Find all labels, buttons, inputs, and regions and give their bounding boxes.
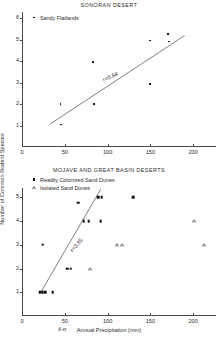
y-tick xyxy=(20,221,23,222)
y-tick xyxy=(20,104,23,105)
data-point xyxy=(69,267,72,270)
data-point xyxy=(66,267,69,270)
data-point xyxy=(97,196,100,199)
data-point xyxy=(60,124,62,126)
y-tick-label: 5 xyxy=(16,37,19,43)
y-tick xyxy=(20,40,23,41)
chart-title-top: SONORAN DESERT xyxy=(0,2,218,8)
y-tick xyxy=(20,126,23,127)
data-point xyxy=(52,291,55,294)
regression-line-top xyxy=(22,12,206,147)
x-tick xyxy=(193,144,194,147)
x-axis-title: Annual Precipitation (mm) xyxy=(0,327,218,333)
plot-area-bottom: r=0.85 12345050100150200 xyxy=(22,188,206,316)
y-tick-label: 4 xyxy=(16,58,19,64)
y-tick xyxy=(20,292,23,293)
data-point xyxy=(115,243,119,246)
data-point xyxy=(100,196,103,199)
panel-mojave-great-basin: MOJAVE AND GREAT BASIN DESERTS Readily C… xyxy=(0,166,218,338)
x-tick-label: 200 xyxy=(188,150,197,156)
y-tick-label: 1 xyxy=(16,123,19,129)
data-point xyxy=(202,243,206,246)
data-point xyxy=(120,243,124,246)
plot-area-top: r=0.84 123456050100150200 xyxy=(22,12,206,147)
y-tick-label: 2 xyxy=(16,101,19,107)
data-point xyxy=(132,196,135,199)
x-mean-sigma-marker: x̄-σ xyxy=(58,326,66,332)
x-tick-label: 100 xyxy=(103,319,112,325)
x-tick-label: 0 xyxy=(20,150,23,156)
y-tick xyxy=(20,83,23,84)
data-point xyxy=(93,103,95,105)
data-point xyxy=(87,220,90,223)
y-tick xyxy=(20,269,23,270)
x-tick-label: 50 xyxy=(62,319,68,325)
y-tick-label: 2 xyxy=(16,266,19,272)
data-point xyxy=(99,220,102,223)
x-tick-label: 50 xyxy=(62,150,68,156)
x-tick-label: 150 xyxy=(146,150,155,156)
data-point xyxy=(168,41,170,43)
data-point xyxy=(77,201,80,204)
chart-title-bottom: MOJAVE AND GREAT BASIN DESERTS xyxy=(0,167,218,173)
panel-sonoran-desert: SONORAN DESERT Sandy Flatlands r=0.84 12… xyxy=(0,0,218,168)
x-tick xyxy=(193,313,194,316)
legend-item-readily-colonized: Readily Colonized Sand Dunes xyxy=(30,176,115,183)
legend-label: Readily Colonized Sand Dunes xyxy=(40,177,115,183)
data-point xyxy=(41,244,44,247)
data-point xyxy=(149,40,151,42)
y-tick xyxy=(20,18,23,19)
y-tick-label: 1 xyxy=(16,289,19,295)
y-tick-label: 3 xyxy=(16,242,19,248)
y-tick-label: 3 xyxy=(16,80,19,86)
y-tick-label: 4 xyxy=(16,218,19,224)
x-tick xyxy=(108,144,109,147)
regression-line-bottom xyxy=(22,188,206,316)
data-point xyxy=(167,33,169,35)
data-point xyxy=(149,83,151,85)
x-tick-label: 150 xyxy=(146,319,155,325)
x-tick-label: 200 xyxy=(188,319,197,325)
figure-root: SONORAN DESERT Sandy Flatlands r=0.84 12… xyxy=(0,0,218,338)
x-tick xyxy=(150,313,151,316)
x-tick xyxy=(150,144,151,147)
x-tick-label: 100 xyxy=(103,150,112,156)
x-tick xyxy=(65,313,66,316)
x-tick xyxy=(65,144,66,147)
data-point xyxy=(88,267,92,270)
data-point xyxy=(60,103,62,105)
x-tick-label: 0 xyxy=(20,319,23,325)
data-point xyxy=(82,220,85,223)
y-tick xyxy=(20,197,23,198)
y-tick xyxy=(20,245,23,246)
square-marker-icon xyxy=(30,178,38,181)
data-point xyxy=(92,61,94,63)
y-tick xyxy=(20,61,23,62)
data-point xyxy=(44,291,47,294)
x-tick xyxy=(108,313,109,316)
data-point xyxy=(192,220,196,223)
y-tick-label: 5 xyxy=(16,195,19,201)
y-tick-label: 6 xyxy=(16,16,19,22)
